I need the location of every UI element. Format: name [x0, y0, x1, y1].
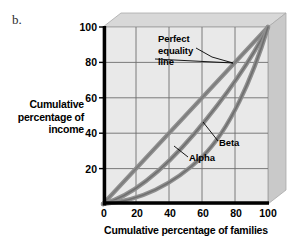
lorenz-curve-figure: b. [0, 0, 295, 247]
annotation-perfect-equality-line: Perfect equality line [158, 33, 208, 68]
xtick-60: 60 [190, 207, 216, 219]
plot-bevel-top [103, 13, 286, 27]
plot-bevel-right [268, 13, 286, 204]
xtick-100: 100 [255, 207, 281, 219]
annotation-beta: Beta [219, 137, 239, 149]
y-axis-title: Cumulative percentage of income [8, 98, 84, 136]
xtick-80: 80 [223, 207, 249, 219]
ytick-20: 20 [71, 163, 97, 175]
xtick-20: 20 [124, 207, 150, 219]
annotation-alpha: Alpha [189, 152, 215, 164]
ytick-80: 80 [71, 56, 97, 68]
ytick-100: 100 [71, 21, 97, 33]
xtick-40: 40 [157, 207, 183, 219]
xtick-0: 0 [91, 207, 117, 219]
tick-marks [99, 27, 103, 169]
x-axis-title: Cumulative percentage of families [86, 224, 286, 236]
